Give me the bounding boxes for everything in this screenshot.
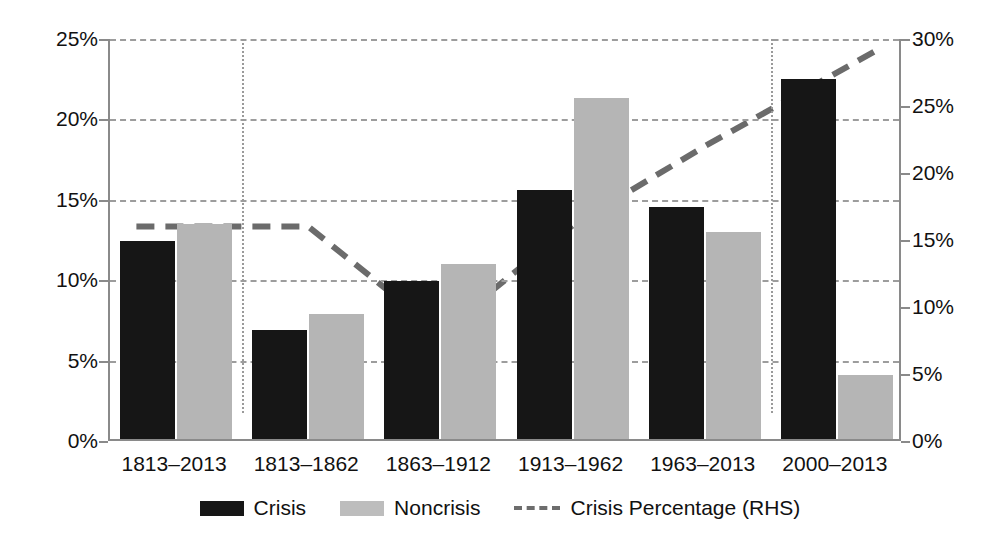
x-axis-label: 1813–1862 [240,452,372,476]
left-axis-tick-mark [99,200,108,202]
bar-crisis [781,79,836,439]
x-axis-label: 2000–2013 [769,452,901,476]
plot-area [108,39,901,441]
left-axis-tick-label: 10% [56,269,98,290]
crisis-swatch-icon [200,501,244,516]
noncrisis-swatch-icon [340,501,384,516]
bar-noncrisis [309,314,364,439]
bar-crisis [384,281,439,439]
left-axis-tick-label: 5% [68,350,98,371]
right-axis-tick-mark [901,307,910,309]
legend-label-crisis: Crisis [254,496,307,520]
right-axis-tick-mark [901,39,910,41]
legend-label-noncrisis: Noncrisis [394,496,480,520]
vertical-dotted-separator [771,39,773,413]
left-axis-tick-label: 25% [56,28,98,49]
legend-item-crisis: Crisis [200,496,307,520]
bar-noncrisis [706,232,761,439]
legend-item-crisis-percentage: Crisis Percentage (RHS) [514,496,800,520]
right-axis-tick-label: 5% [912,363,942,384]
left-axis-tick-label: 20% [56,108,98,129]
right-axis-tick-mark [901,106,910,108]
chart-legend: Crisis Noncrisis Crisis Percentage (RHS) [0,496,1000,520]
dashed-line-swatch-icon [514,506,560,510]
bar-noncrisis [177,224,232,439]
right-axis-tick-mark [901,441,910,443]
right-axis-tick-label: 0% [912,430,942,451]
legend-label-crisis-percentage: Crisis Percentage (RHS) [570,496,800,520]
right-axis-tick-mark [901,240,910,242]
left-axis-tick-label: 0% [68,430,98,451]
right-axis-tick-label: 30% [912,28,954,49]
x-axis-label: 1813–2013 [108,452,240,476]
chart-container: 0%5%10%15%20%25% 0%5%10%15%20%25%30% 181… [0,0,1000,553]
legend-item-noncrisis: Noncrisis [340,496,480,520]
x-axis-label: 1863–1912 [372,452,504,476]
bar-noncrisis [441,264,496,439]
right-axis-tick-label: 10% [912,296,954,317]
left-axis-tick-mark [99,39,108,41]
left-axis-tick-label: 15% [56,189,98,210]
bar-crisis [252,330,307,439]
gridline [110,39,899,41]
left-axis-tick-mark [99,280,108,282]
crisis-percentage-polyline [136,50,876,332]
right-axis-tick-label: 25% [912,95,954,116]
x-axis-label: 1913–1962 [505,452,637,476]
right-axis-tick-label: 20% [912,162,954,183]
bar-crisis [649,207,704,439]
vertical-dotted-separator [242,39,244,413]
left-axis-tick-mark [99,119,108,121]
bar-noncrisis [838,375,893,439]
right-axis-tick-mark [901,374,910,376]
left-axis-tick-mark [99,441,108,443]
right-axis-tick-label: 15% [912,229,954,250]
bar-noncrisis [574,98,629,439]
left-axis-tick-mark [99,361,108,363]
x-axis-label: 1963–2013 [637,452,769,476]
bar-crisis [120,241,175,439]
right-axis-tick-mark [901,173,910,175]
bar-crisis [517,190,572,439]
